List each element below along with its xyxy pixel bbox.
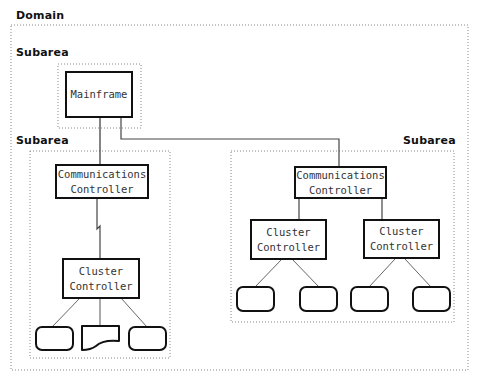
terminal-icon [413,287,450,311]
right-cluster-controller-2-label: Cluster Controller [370,224,433,254]
sna-network-diagram: Domain Subarea Subarea Subarea Mainframe… [0,0,478,382]
right-cluster-controller-1-label: Cluster Controller [257,225,320,255]
right-cluster-controller-1-node: Cluster Controller [250,219,327,260]
terminal-icon [300,287,337,311]
link-right-cluster2-device-2 [405,259,431,287]
right-communications-controller-label: Communications Controller [296,168,385,198]
document-icon [82,326,119,350]
left-communications-controller-node: Communications Controller [55,164,149,199]
domain-label: Domain [16,9,64,22]
right-cluster-controller-2-node: Cluster Controller [363,219,440,259]
left-communications-controller-label: Communications Controller [58,167,147,197]
link-right-cluster1-device-2 [292,259,319,287]
mainframe-node: Mainframe [65,71,133,118]
mainframe-label: Mainframe [71,87,128,102]
terminal-icon [237,287,274,311]
left-cluster-controller-node: Cluster Controller [62,258,140,299]
left-cluster-controller-label: Cluster Controller [69,264,132,294]
link-left-cc-cluster-lightning [97,198,100,258]
link-mainframe-right-cc [121,118,339,166]
subarea-label-right: Subarea [403,134,456,147]
link-right-cluster1-device-1 [255,259,282,287]
link-right-cluster2-device-1 [369,259,395,287]
terminal-icon [36,327,73,350]
subarea-label-left: Subarea [16,134,69,147]
subarea-label-mainframe: Subarea [16,46,69,59]
right-communications-controller-node: Communications Controller [294,166,387,199]
terminal-icon [351,287,388,311]
link-left-cluster-device-1 [52,298,80,327]
link-left-cluster-device-3 [121,298,147,327]
terminal-icon [129,327,166,350]
